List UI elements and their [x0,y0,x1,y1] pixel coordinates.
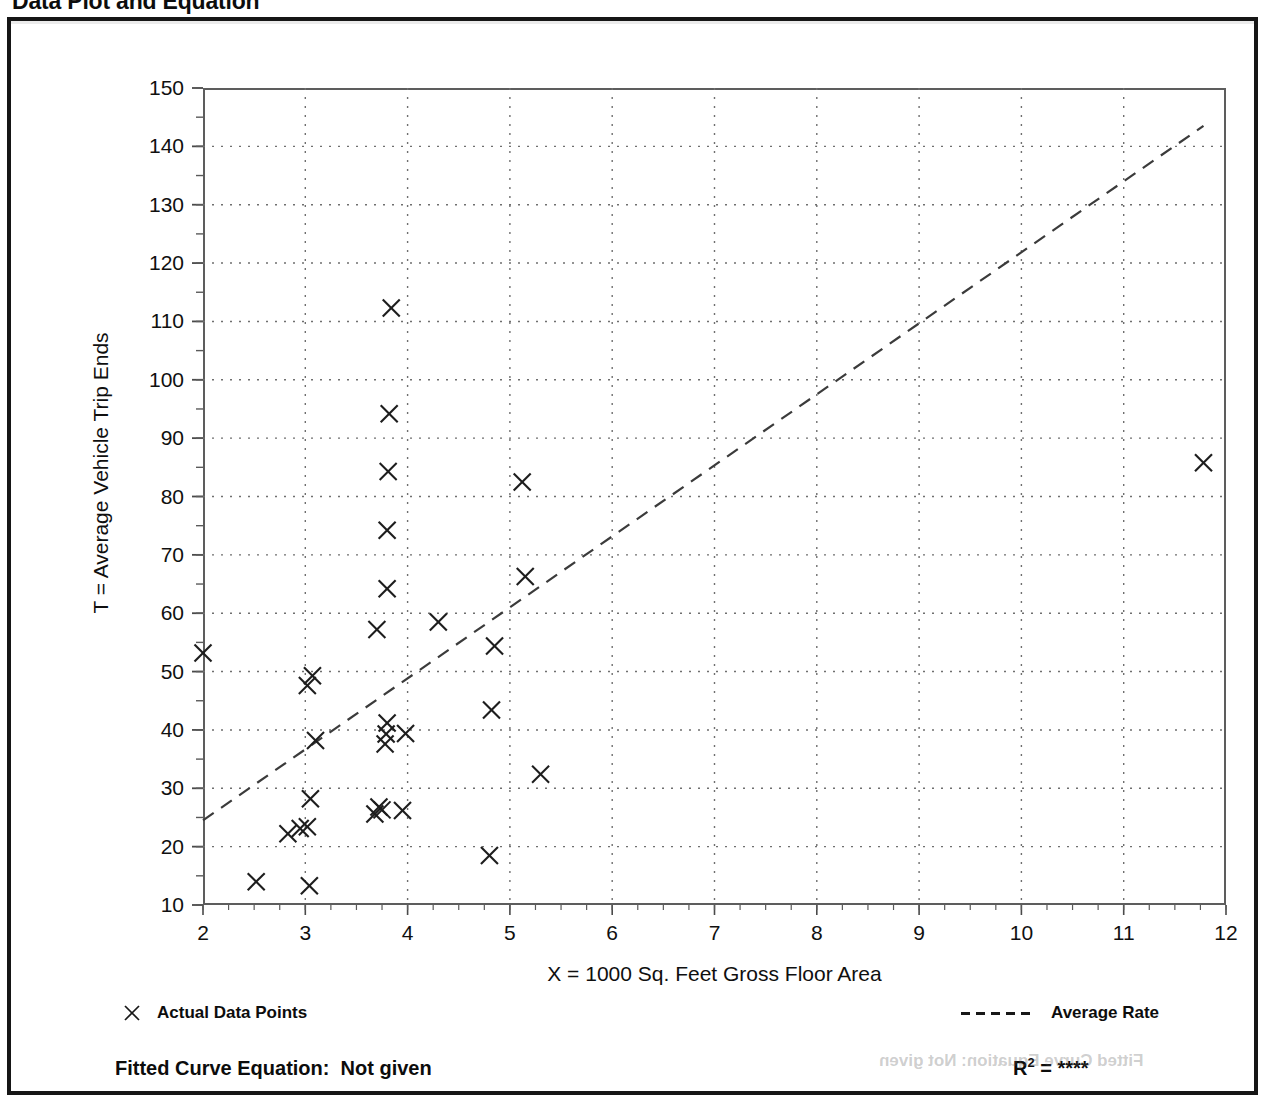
y-axis-tick-label: 20 [130,836,184,857]
data-point-marker [1195,454,1212,471]
r-squared-exponent: 2 [1027,1055,1034,1070]
y-axis-tick-label: 50 [130,661,184,682]
data-point-marker [430,613,447,630]
r-squared-value: **** [1058,1057,1089,1079]
bleedthrough-ghost-text: Fitted Curve Equation: Not given [879,1051,1143,1071]
fitted-curve-value: Not given [341,1057,432,1079]
data-point-marker [307,732,324,749]
x-axis-tick-label: 3 [275,922,335,943]
x-axis-tick-label: 5 [480,922,540,943]
y-axis-tick-label: 60 [130,602,184,623]
x-axis-tick-label: 12 [1196,922,1256,943]
data-point-marker [383,300,400,317]
legend-actual-label: Actual Data Points [157,1003,307,1023]
data-point-marker [301,877,318,894]
plot-area [203,88,1226,905]
dashed-line-icon [961,1012,1033,1015]
r-squared-statistic: R2 = **** [1013,1055,1089,1080]
y-axis-tick-label: 10 [130,894,184,915]
y-axis-tick-label: 140 [130,135,184,156]
data-point-marker [481,847,498,864]
y-axis-tick-label: 110 [130,310,184,331]
legend-average-label: Average Rate [1051,1003,1159,1023]
y-axis-tick-label: 30 [130,777,184,798]
x-axis-tick-label: 2 [173,922,233,943]
legend-average-rate: Average Rate [961,1003,1159,1023]
x-axis-title: X = 1000 Sq. Feet Gross Floor Area [203,962,1226,986]
x-marker-icon [123,1004,141,1022]
data-point-marker [514,473,531,490]
scatter-points [203,88,1226,905]
r-squared-label: R [1013,1057,1027,1079]
data-point-marker [379,714,396,731]
y-axis-title: T = Average Vehicle Trip Ends [89,263,113,683]
data-point-marker [195,644,212,661]
data-point-marker [379,580,396,597]
data-point-marker [248,873,265,890]
y-axis-tick-label: 90 [130,427,184,448]
data-point-marker [379,522,396,539]
fitted-curve-label: Fitted Curve Equation: [115,1057,329,1079]
r-squared-equals: = [1040,1057,1052,1079]
x-axis-tick-label: 7 [685,922,745,943]
y-axis-tick-label: 130 [130,194,184,215]
data-point-marker [302,790,319,807]
data-point-marker [381,405,398,422]
data-point-marker [397,725,414,742]
data-point-marker [380,463,397,480]
x-axis-tick-label: 10 [991,922,1051,943]
legend-actual-data-points: Actual Data Points [123,1003,307,1023]
data-point-marker [368,621,385,638]
y-axis-tick-label: 120 [130,252,184,273]
data-point-marker [483,702,500,719]
y-axis-tick-label: 150 [130,77,184,98]
x-axis-tick-label: 9 [889,922,949,943]
data-point-marker [486,637,503,654]
x-axis-tick-label: 4 [378,922,438,943]
data-point-marker [394,802,411,819]
y-axis-tick-label: 70 [130,544,184,565]
page-title: Data Plot and Equation [12,0,259,15]
data-point-marker [517,568,534,585]
y-axis-tick-label: 80 [130,486,184,507]
x-axis-tick-label: 8 [787,922,847,943]
chart-frame: 150140130120110100908070605040302010 234… [7,17,1258,1095]
y-axis-tick-label: 100 [130,369,184,390]
x-axis-tick-label: 6 [582,922,642,943]
y-axis-tick-label: 40 [130,719,184,740]
x-axis-tick-label: 11 [1094,922,1154,943]
data-point-marker [532,766,549,783]
fitted-curve-equation: Fitted Curve Equation: Not given [115,1057,432,1080]
